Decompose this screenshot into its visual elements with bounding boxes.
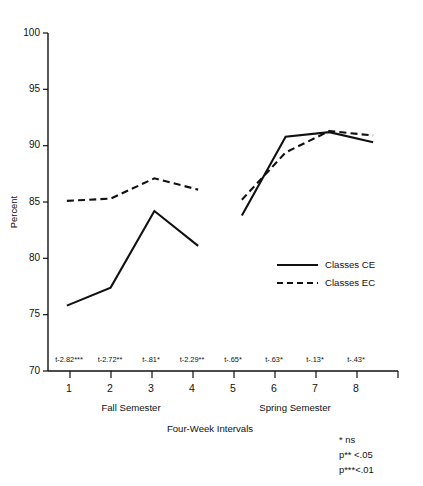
legend-label-classes-ce: Classes CE: [325, 259, 375, 270]
x-tick-label-4: 4: [189, 382, 195, 394]
y-tick-label-85: 85: [29, 196, 41, 207]
y-tick-label-100: 100: [23, 27, 40, 38]
series-classes-ec-fall-segment: [67, 178, 198, 201]
x-tick-label-3: 3: [148, 382, 154, 394]
tstat-6: t-.63*: [265, 355, 283, 364]
y-tick-label-75: 75: [29, 308, 41, 319]
series-classes-ce-spring-segment: [242, 132, 373, 215]
line-chart-svg: 100 95 90 85 80 75 70 Percent 1 2 3: [0, 0, 423, 486]
series-classes-ec: [67, 131, 373, 201]
x-tick-label-8: 8: [353, 382, 359, 394]
y-tick-label-95: 95: [29, 83, 41, 94]
y-axis-ticks: 100 95 90 85 80 75 70: [23, 27, 48, 376]
tstat-8: t-.43*: [347, 355, 365, 364]
tstat-1: t-2.82***: [55, 355, 83, 364]
x-axis-title: Four-Week Intervals: [167, 423, 253, 434]
y-tick-label-70: 70: [29, 365, 41, 376]
tstat-2: t-2.72**: [98, 355, 123, 364]
footnote-line-2: p** <.05: [339, 449, 373, 460]
legend-label-classes-ec: Classes EC: [325, 277, 375, 288]
x-tick-label-7: 7: [312, 382, 318, 394]
x-tick-label-2: 2: [107, 382, 113, 394]
x-tick-label-1: 1: [66, 382, 72, 394]
group-label-spring: Spring Semester: [259, 402, 331, 413]
group-label-fall: Fall Semester: [101, 402, 161, 413]
y-tick-label-90: 90: [29, 139, 41, 150]
series-classes-ce-fall-segment: [67, 211, 198, 306]
significance-footnotes: * ns p** <.05 p***<.01: [339, 434, 374, 475]
footnote-line-3: p***<.01: [339, 464, 374, 475]
y-tick-label-80: 80: [29, 252, 41, 263]
tstat-annotations: t-2.82*** t-2.72** t-.81* t-2.29** t-.65…: [55, 355, 365, 364]
figure-chart: 100 95 90 85 80 75 70 Percent 1 2 3: [0, 0, 423, 486]
chart-legend: Classes CE Classes EC: [277, 259, 375, 288]
tstat-7: t-.13*: [306, 355, 324, 364]
x-axis-ticks: [70, 371, 398, 378]
y-axis-title: Percent: [8, 195, 19, 228]
tstat-5: t-.65*: [224, 355, 242, 364]
footnote-line-1: * ns: [339, 434, 355, 445]
tstat-4: t-2.29**: [180, 355, 205, 364]
series-classes-ec-spring-segment: [242, 131, 373, 200]
x-axis-tick-labels: 1 2 3 4 5 6 7 8: [66, 382, 359, 394]
x-tick-label-5: 5: [230, 382, 236, 394]
tstat-3: t-.81*: [142, 355, 160, 364]
x-tick-label-6: 6: [271, 382, 277, 394]
